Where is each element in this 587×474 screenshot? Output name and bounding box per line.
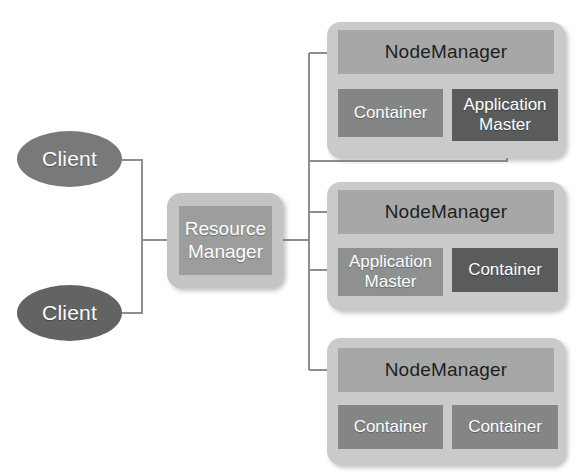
node-manager-header-3[interactable]: NodeManager <box>338 348 554 392</box>
container-box-nm3-b[interactable]: Container <box>452 405 558 449</box>
container-box-nm3-a[interactable]: Container <box>338 405 443 449</box>
wire-client-top <box>122 160 142 240</box>
child-label-line1: Container <box>354 417 428 437</box>
container-box-nm1-a[interactable]: Container <box>338 89 443 137</box>
child-label-line2: Master <box>365 272 417 292</box>
child-label-line1: Container <box>468 417 542 437</box>
container-box-nm2[interactable]: Container <box>452 248 558 292</box>
resource-manager-label-line1: Resource <box>185 218 266 240</box>
client-node-1[interactable]: Client <box>17 131 122 187</box>
client-label: Client <box>42 301 97 325</box>
node-manager-label: NodeManager <box>385 201 508 223</box>
client-node-2[interactable]: Client <box>17 285 122 341</box>
node-manager-header-1[interactable]: NodeManager <box>338 30 554 74</box>
resource-manager-box[interactable]: Resource Manager <box>179 206 272 275</box>
application-master-box-nm2[interactable]: Application Master <box>338 248 443 296</box>
node-manager-label: NodeManager <box>385 41 508 63</box>
child-label-line1: Container <box>468 260 542 280</box>
client-label: Client <box>42 147 97 171</box>
child-label-line1: Application <box>349 252 432 272</box>
yarn-architecture-diagram: Client Client Resource Manager NodeManag… <box>0 0 587 474</box>
node-manager-label: NodeManager <box>385 359 508 381</box>
wire-client-bottom <box>122 240 142 313</box>
child-label-line2: Master <box>479 115 531 135</box>
child-label-line1: Container <box>354 103 428 123</box>
child-label-line1: Application <box>463 95 546 115</box>
application-master-box-nm1[interactable]: Application Master <box>452 89 558 141</box>
resource-manager-label-line2: Manager <box>188 241 263 263</box>
node-manager-header-2[interactable]: NodeManager <box>338 190 554 234</box>
